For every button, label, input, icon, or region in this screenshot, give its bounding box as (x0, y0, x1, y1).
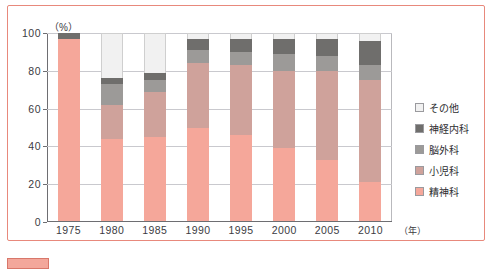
bar-segment-ped-2005[interactable] (316, 71, 338, 160)
legend-label-1: 神経内科 (429, 121, 469, 136)
bar-segment-ped-2000[interactable] (273, 71, 295, 148)
bar-segment-nsu-2005[interactable] (316, 56, 338, 71)
y-tick-mark-0 (43, 222, 47, 223)
x-tick-label-1985: 1985 (142, 224, 167, 236)
y-tick-label-100: 100 (22, 27, 41, 39)
y-tick-label-60: 60 (28, 103, 41, 115)
x-tick-label-1995: 1995 (229, 224, 254, 236)
bar-1975[interactable] (58, 33, 80, 222)
bar-segment-neu-2000[interactable] (273, 39, 295, 54)
bar-segment-ped-1995[interactable] (230, 65, 252, 135)
gridline-40 (47, 146, 392, 147)
y-tick-label-80: 80 (28, 65, 41, 77)
bar-segment-nsu-1995[interactable] (230, 52, 252, 65)
caption-tag-icon (7, 258, 49, 269)
bar-segment-psy-1990[interactable] (187, 128, 209, 223)
gridline-60 (47, 109, 392, 110)
bar-segment-neu-1990[interactable] (187, 39, 209, 50)
y-tick-mark-60 (43, 109, 47, 110)
legend-item-0[interactable]: その他 (415, 100, 469, 115)
gridline-80 (47, 71, 392, 72)
legend-label-0: その他 (429, 100, 459, 115)
y-tick-label-20: 20 (28, 178, 41, 190)
legend-item-1[interactable]: 神経内科 (415, 121, 469, 136)
bar-segment-neu-2010[interactable] (359, 41, 381, 66)
bar-segment-psy-1995[interactable] (230, 135, 252, 222)
x-axis-line (47, 221, 392, 222)
x-tick-label-1980: 1980 (99, 224, 124, 236)
y-tick-label-40: 40 (28, 140, 41, 152)
x-tick-label-1990: 1990 (185, 224, 210, 236)
bar-segment-oth-2010[interactable] (359, 33, 381, 41)
y-axis-unit-label: （%） (49, 19, 78, 34)
bar-2000[interactable] (273, 33, 295, 222)
bar-1990[interactable] (187, 33, 209, 222)
bar-segment-ped-1980[interactable] (101, 105, 123, 139)
x-tick-label-2010: 2010 (358, 224, 383, 236)
legend-swatch-icon-0 (415, 103, 424, 112)
gridline-100 (47, 33, 392, 34)
legend-item-3[interactable]: 小児科 (415, 163, 469, 178)
chart-plot-area: 020406080100 197519801985199019952000200… (47, 33, 392, 222)
bar-segment-ped-1990[interactable] (187, 63, 209, 127)
bar-2010[interactable] (359, 33, 381, 222)
bar-segment-oth-1985[interactable] (144, 33, 166, 73)
bar-1995[interactable] (230, 33, 252, 222)
bar-segment-nsu-1990[interactable] (187, 50, 209, 63)
y-axis-line (47, 33, 48, 222)
bar-segment-ped-2010[interactable] (359, 80, 381, 182)
bar-segment-psy-2000[interactable] (273, 148, 295, 222)
bar-segment-nsu-1980[interactable] (101, 84, 123, 105)
legend-item-2[interactable]: 脳外科 (415, 142, 469, 157)
bar-segment-psy-1980[interactable] (101, 139, 123, 222)
legend-item-4[interactable]: 精神科 (415, 184, 469, 199)
y-tick-label-0: 0 (35, 216, 41, 228)
bar-segment-nsu-2000[interactable] (273, 54, 295, 71)
bar-segment-nsu-1985[interactable] (144, 80, 166, 91)
bar-segment-psy-1975[interactable] (58, 39, 80, 222)
legend-label-2: 脳外科 (429, 142, 459, 157)
gridline-20 (47, 184, 392, 185)
bar-segment-psy-1985[interactable] (144, 137, 166, 222)
y-tick-mark-80 (43, 71, 47, 72)
bar-segment-psy-2010[interactable] (359, 182, 381, 222)
bar-segment-psy-2005[interactable] (316, 160, 338, 222)
bar-segment-neu-1985[interactable] (144, 73, 166, 81)
bar-1980[interactable] (101, 33, 123, 222)
x-tick-label-2005: 2005 (315, 224, 340, 236)
x-axis-unit-label: （年） (399, 224, 426, 237)
legend-swatch-icon-1 (415, 124, 424, 133)
bar-segment-neu-2005[interactable] (316, 39, 338, 56)
plot-border (47, 33, 392, 222)
bar-segment-ped-1985[interactable] (144, 92, 166, 137)
chart-legend: その他神経内科脳外科小児科精神科 (415, 100, 469, 199)
bar-2005[interactable] (316, 33, 338, 222)
legend-label-4: 精神科 (429, 184, 459, 199)
y-tick-mark-40 (43, 146, 47, 147)
legend-label-3: 小児科 (429, 163, 459, 178)
caption-strip (7, 254, 485, 272)
legend-swatch-icon-3 (415, 166, 424, 175)
x-tick-label-2000: 2000 (272, 224, 297, 236)
bar-1985[interactable] (144, 33, 166, 222)
x-tick-label-1975: 1975 (56, 224, 81, 236)
bar-segment-nsu-2010[interactable] (359, 65, 381, 80)
legend-swatch-icon-2 (415, 145, 424, 154)
y-tick-mark-100 (43, 33, 47, 34)
legend-swatch-icon-4 (415, 187, 424, 196)
y-tick-mark-20 (43, 184, 47, 185)
bar-segment-neu-1995[interactable] (230, 39, 252, 52)
bar-segment-oth-1980[interactable] (101, 33, 123, 78)
